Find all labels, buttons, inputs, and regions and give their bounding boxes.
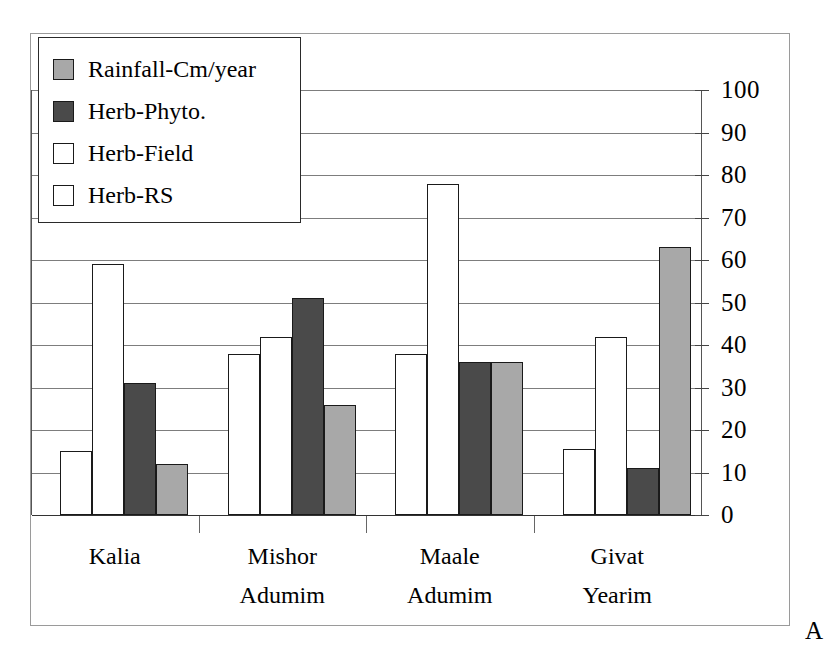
bar bbox=[427, 184, 459, 516]
y-axis-tick-label: 0 bbox=[721, 502, 734, 527]
y-axis-tick-label: 40 bbox=[721, 332, 747, 357]
y-axis-tick bbox=[695, 218, 709, 219]
bar bbox=[292, 298, 324, 515]
y-axis-tick bbox=[695, 133, 709, 134]
bar bbox=[260, 337, 292, 516]
legend-item-label: Rainfall-Cm/year bbox=[88, 57, 256, 81]
category-label: Kalia bbox=[31, 542, 199, 571]
bar bbox=[124, 383, 156, 515]
y-axis-tick bbox=[695, 303, 709, 304]
category-separator-tick bbox=[199, 516, 200, 533]
legend-item: Herb-Field bbox=[53, 132, 300, 174]
bar bbox=[395, 354, 427, 516]
bar bbox=[60, 451, 92, 515]
y-axis-tick bbox=[695, 260, 709, 261]
y-axis-tick bbox=[695, 473, 709, 474]
category-label: Adumim bbox=[366, 581, 534, 610]
category-label: Mishor bbox=[199, 542, 367, 571]
bar bbox=[324, 405, 356, 516]
y-axis-tick-label: 100 bbox=[721, 77, 760, 102]
y-axis-tick-label: 90 bbox=[721, 120, 747, 145]
legend-swatch-filled bbox=[53, 59, 74, 80]
legend-item: Herb-Phyto. bbox=[53, 90, 300, 132]
y-axis-tick bbox=[695, 515, 709, 516]
y-axis-tick-label: 50 bbox=[721, 290, 747, 315]
y-axis-tick-label: 10 bbox=[721, 460, 747, 485]
category-separator-tick bbox=[534, 516, 535, 533]
category-separator-tick bbox=[366, 516, 367, 533]
legend-swatch-outline bbox=[53, 185, 74, 206]
y-axis-tick-label: 30 bbox=[721, 375, 747, 400]
figure-frame: 0102030405060708090100 KaliaMishorAdumim… bbox=[30, 33, 790, 626]
legend-swatch-outline bbox=[53, 143, 74, 164]
legend-item-label: Herb-RS bbox=[88, 183, 173, 207]
y-axis-tick bbox=[695, 345, 709, 346]
panel-letter: A bbox=[805, 618, 823, 643]
gridline bbox=[32, 260, 701, 261]
category-label: Yearim bbox=[534, 581, 702, 610]
y-axis-tick bbox=[695, 90, 709, 91]
bar bbox=[563, 449, 595, 515]
bar bbox=[491, 362, 523, 515]
y-axis-tick bbox=[695, 430, 709, 431]
chart-legend: Rainfall-Cm/yearHerb-Phyto.Herb-FieldHer… bbox=[38, 37, 301, 223]
y-axis-tick bbox=[695, 388, 709, 389]
legend-item: Herb-RS bbox=[53, 174, 300, 216]
category-label: Adumim bbox=[199, 581, 367, 610]
gridline bbox=[32, 303, 701, 304]
legend-item-label: Herb-Field bbox=[88, 141, 193, 165]
bar bbox=[595, 337, 627, 516]
bar bbox=[627, 468, 659, 515]
y-axis-tick-label: 20 bbox=[721, 417, 747, 442]
y-axis-tick-label: 70 bbox=[721, 205, 747, 230]
category-label: Maale bbox=[366, 542, 534, 571]
y-axis-tick-label: 60 bbox=[721, 247, 747, 272]
y-axis-tick-label: 80 bbox=[721, 162, 747, 187]
bar bbox=[156, 464, 188, 515]
bar bbox=[459, 362, 491, 515]
bar bbox=[659, 247, 691, 515]
legend-swatch-filled bbox=[53, 101, 74, 122]
bar bbox=[228, 354, 260, 516]
bar bbox=[92, 264, 124, 515]
category-label: Givat bbox=[534, 542, 702, 571]
legend-item-label: Herb-Phyto. bbox=[88, 99, 206, 123]
y-axis-tick bbox=[695, 175, 709, 176]
legend-item: Rainfall-Cm/year bbox=[53, 48, 300, 90]
